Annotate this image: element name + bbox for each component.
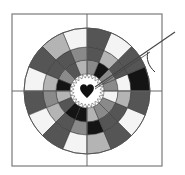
quilt-illustration: [0, 0, 185, 175]
